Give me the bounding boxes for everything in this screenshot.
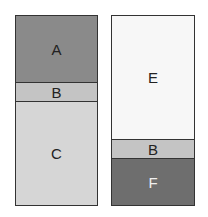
segment-label: E: [148, 69, 158, 86]
segment-c: C: [16, 101, 97, 205]
segment-label: A: [51, 41, 61, 58]
segment-label: B: [51, 84, 61, 101]
segment-label: C: [51, 145, 62, 162]
right-column: E B F: [111, 15, 195, 206]
segment-label: F: [148, 174, 157, 191]
segment-b-left: B: [16, 82, 97, 101]
left-column: A B C: [15, 15, 98, 206]
segment-a: A: [16, 16, 97, 82]
segment-b-right: B: [112, 139, 194, 158]
segment-f: F: [112, 158, 194, 205]
segment-label: B: [148, 141, 158, 158]
segment-e: E: [112, 16, 194, 139]
